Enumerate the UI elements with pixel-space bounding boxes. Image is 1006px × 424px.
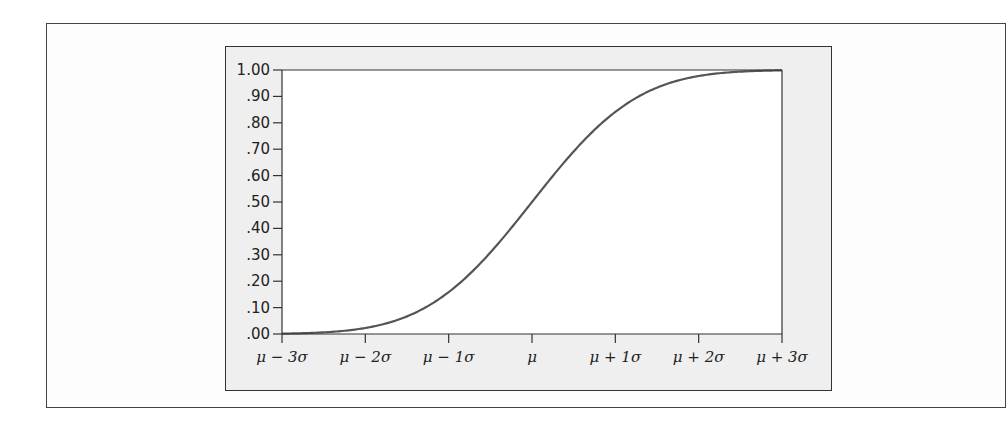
y-tick-label: .50 <box>246 193 270 211</box>
y-tick-label: .10 <box>246 299 270 317</box>
y-tick-label: .30 <box>246 246 270 264</box>
y-tick-label: 1.00 <box>237 61 270 79</box>
x-tick-label: μ + 1σ <box>590 348 642 366</box>
y-tick-label: .70 <box>246 140 270 158</box>
x-tick-label: μ − 2σ <box>340 348 392 366</box>
y-tick-label: .80 <box>246 114 270 132</box>
y-tick-label: .20 <box>246 272 270 290</box>
y-tick-label: .40 <box>246 219 270 237</box>
x-axis: μ − 3σμ − 2σμ − 1σμμ + 1σμ + 2σμ + 3σ <box>256 334 808 366</box>
y-axis: .00.10.20.30.40.50.60.70.80.901.00 <box>237 61 282 343</box>
y-tick-label: .90 <box>246 87 270 105</box>
x-tick-label: μ − 3σ <box>256 348 308 366</box>
x-tick-label: μ <box>527 348 537 366</box>
x-tick-label: μ + 3σ <box>756 348 808 366</box>
y-tick-label: .00 <box>246 325 270 343</box>
x-tick-label: μ + 2σ <box>673 348 725 366</box>
y-tick-label: .60 <box>246 167 270 185</box>
x-tick-label: μ − 1σ <box>423 348 475 366</box>
